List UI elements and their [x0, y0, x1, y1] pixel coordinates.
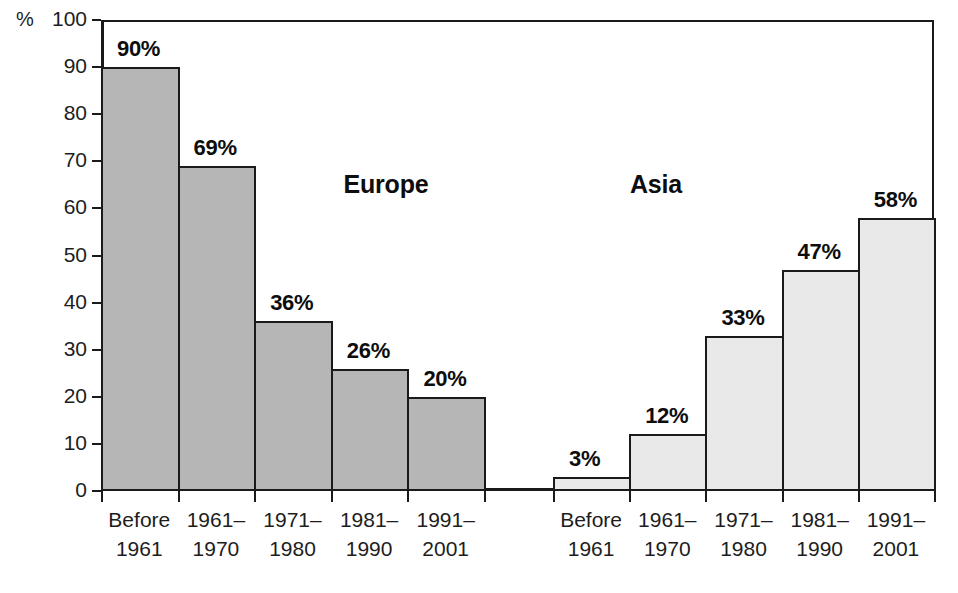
bar: [178, 166, 257, 491]
x-axis-category-label-line1: 1961–: [187, 508, 245, 531]
bar: [629, 434, 707, 491]
y-axis-tick-mark: [92, 113, 101, 115]
bar-value-label: 33%: [721, 305, 764, 331]
x-axis-category-label-line2: 1961: [560, 534, 622, 563]
x-axis-category-label-line1: 1981–: [340, 508, 398, 531]
bar-value-label: 20%: [423, 366, 466, 392]
y-axis-tick-label: 70: [64, 147, 87, 173]
x-axis-category-label-line1: 1971–: [263, 508, 321, 531]
x-axis-tick-mark: [858, 491, 860, 502]
x-axis-category-label: Before1961: [108, 505, 170, 563]
y-axis-tick-mark: [92, 19, 101, 21]
y-axis-tick-label: 0: [75, 477, 87, 503]
bar-value-label: 3%: [569, 446, 600, 472]
x-axis-category-label: 1981–1990: [790, 505, 848, 563]
bar: [705, 336, 783, 491]
x-axis-tick-mark: [254, 491, 256, 502]
y-axis-tick-label: 30: [64, 336, 87, 362]
bar-value-label: 90%: [117, 36, 160, 62]
x-axis-category-label: 1971–1980: [714, 505, 772, 563]
y-axis-tick-label: 10: [64, 430, 87, 456]
x-axis-category-label-line1: 1991–: [867, 508, 925, 531]
bar-value-label: 26%: [347, 338, 390, 364]
y-axis-tick-mark: [92, 207, 101, 209]
bar: [782, 270, 860, 491]
x-axis-tick-mark: [629, 491, 631, 502]
y-axis-tick-mark: [92, 443, 101, 445]
bar-value-label: 36%: [270, 290, 313, 316]
x-axis-category-label: 1991–2001: [867, 505, 925, 563]
x-axis-category-label: 1981–1990: [340, 505, 398, 563]
y-axis-tick-mark: [92, 302, 101, 304]
y-axis-tick-label: 90: [64, 53, 87, 79]
bar: [331, 369, 410, 491]
y-axis-tick-mark: [92, 490, 101, 492]
x-axis-category-label-line1: 1971–: [714, 508, 772, 531]
x-axis-tick-mark: [553, 491, 555, 502]
x-axis-tick-mark: [705, 491, 707, 502]
bar-value-label: 12%: [645, 403, 688, 429]
bar: [858, 218, 936, 491]
x-axis-tick-mark: [484, 491, 486, 502]
x-axis-category-label: Before1961: [560, 505, 622, 563]
x-axis-category-label: 1971–1980: [263, 505, 321, 563]
group-title-asia: Asia: [630, 170, 682, 199]
x-axis-category-label-line1: 1981–: [790, 508, 848, 531]
x-axis-category-label-line1: Before: [560, 508, 622, 531]
x-axis-tick-mark: [407, 491, 409, 502]
x-axis-category-label-line2: 2001: [416, 534, 474, 563]
x-axis-category-label-line2: 1980: [263, 534, 321, 563]
bar: [553, 477, 631, 491]
x-axis-category-label: 1961–1970: [638, 505, 696, 563]
bar-chart: % 1009080706050403020100 90%69%36%26%20%…: [0, 0, 958, 593]
y-axis-tick-label: 100: [52, 6, 87, 32]
x-axis-category-label-line2: 1990: [340, 534, 398, 563]
x-axis-category-label-line2: 1970: [638, 534, 696, 563]
x-axis-tick-mark: [782, 491, 784, 502]
y-axis-tick-mark: [92, 160, 101, 162]
x-axis-category-label-line2: 2001: [867, 534, 925, 563]
bar-value-label: 69%: [194, 135, 237, 161]
x-axis-category-label-line1: 1961–: [638, 508, 696, 531]
y-axis-tick-mark: [92, 255, 101, 257]
y-axis-tick-label: 80: [64, 100, 87, 126]
bar-value-label: 47%: [798, 239, 841, 265]
group-title-europe: Europe: [344, 170, 429, 199]
x-axis-tick-mark: [178, 491, 180, 502]
x-axis-category-label-line2: 1980: [714, 534, 772, 563]
y-axis-tick-mark: [92, 66, 101, 68]
x-axis-category-label-line2: 1970: [187, 534, 245, 563]
x-axis-category-label: 1991–2001: [416, 505, 474, 563]
x-axis-category-label-line2: 1990: [790, 534, 848, 563]
y-axis-tick-label: 20: [64, 383, 87, 409]
bar-value-label: 58%: [874, 187, 917, 213]
x-axis-category-label: 1961–1970: [187, 505, 245, 563]
x-axis-tick-mark: [101, 491, 103, 502]
bar: [407, 397, 486, 491]
y-axis-unit-label: %: [16, 8, 34, 31]
bar: [101, 67, 180, 491]
y-axis-tick-label: 60: [64, 194, 87, 220]
x-axis-category-label-line1: Before: [108, 508, 170, 531]
x-axis-tick-mark: [934, 491, 936, 502]
bar: [254, 321, 333, 491]
x-axis-tick-mark: [331, 491, 333, 502]
y-axis-tick-mark: [92, 349, 101, 351]
y-axis-tick-mark: [92, 396, 101, 398]
x-axis-category-label-line1: 1991–: [416, 508, 474, 531]
y-axis-tick-label: 50: [64, 242, 87, 268]
x-axis-category-label-line2: 1961: [108, 534, 170, 563]
y-axis-tick-label: 40: [64, 289, 87, 315]
